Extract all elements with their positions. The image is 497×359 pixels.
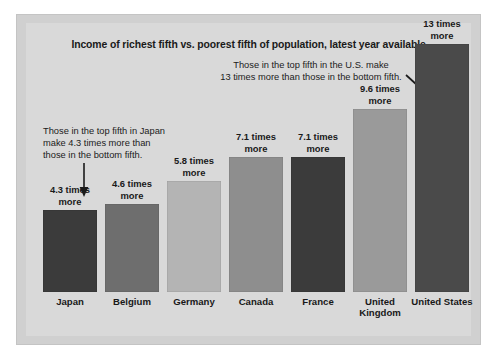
bar[interactable] xyxy=(43,210,97,292)
chart-field: Income of richest fifth vs. poorest fift… xyxy=(26,23,471,336)
bar-category-label: Germany xyxy=(159,296,229,307)
bar-category-label: Canada xyxy=(221,296,291,307)
bar-value-label: 9.6 times more xyxy=(347,83,413,106)
bar-group-belgium: 4.6 times moreBelgium xyxy=(105,204,159,292)
bar-value-label: 4.3 times more xyxy=(37,184,103,207)
bar-value-label: 4.6 times more xyxy=(99,178,165,201)
bar-group-canada: 7.1 times moreCanada xyxy=(229,157,283,292)
bar-group-united-states: 13 times moreUnited States xyxy=(415,44,469,292)
bar-value-label: 7.1 times more xyxy=(223,131,289,154)
figure-plate: Income of richest fifth vs. poorest fift… xyxy=(16,14,481,345)
bar-category-label: Japan xyxy=(35,296,105,307)
bar-category-label: Belgium xyxy=(97,296,167,307)
plot-area: 4.3 times moreJapan4.6 times moreBelgium… xyxy=(26,23,471,336)
bar[interactable] xyxy=(105,204,159,292)
bar[interactable] xyxy=(353,109,407,292)
bar-group-united-kingdom: 9.6 times moreUnited Kingdom xyxy=(353,109,407,292)
bar-group-japan: 4.3 times moreJapan xyxy=(43,210,97,292)
bar-category-label: United States xyxy=(407,296,477,307)
bar-value-label: 7.1 times more xyxy=(285,131,351,154)
bar[interactable] xyxy=(415,44,469,292)
bar-category-label: United Kingdom xyxy=(345,296,415,318)
bar-group-france: 7.1 times moreFrance xyxy=(291,157,345,292)
bar-category-label: France xyxy=(283,296,353,307)
bar[interactable] xyxy=(229,157,283,292)
bar-group-germany: 5.8 times moreGermany xyxy=(167,181,221,292)
figure-root: Income of richest fifth vs. poorest fift… xyxy=(0,0,497,359)
bar[interactable] xyxy=(291,157,345,292)
bar-value-label: 5.8 times more xyxy=(161,155,227,178)
bar-value-label: 13 times more xyxy=(409,18,475,41)
bar[interactable] xyxy=(167,181,221,292)
